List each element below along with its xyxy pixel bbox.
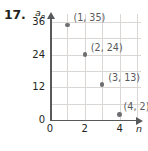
x-tick-label: 0 xyxy=(40,124,60,134)
data-point-label: (4, 2) xyxy=(124,102,148,112)
data-point-label: (3, 13) xyxy=(108,73,140,83)
grid-line-horizontal xyxy=(50,55,141,56)
x-tick-label: 2 xyxy=(75,124,95,134)
data-point xyxy=(83,52,88,57)
grid-line-horizontal xyxy=(50,38,141,39)
y-axis-arrow-icon xyxy=(47,12,55,19)
x-axis-label: n xyxy=(136,124,142,134)
x-tick-label: 4 xyxy=(110,124,130,134)
grid-line-horizontal xyxy=(50,87,141,88)
y-tick-label: 12 xyxy=(32,82,45,92)
exercise-figure: 17. an n 0122436 024 (1, 35)(2, 24)(3, 1… xyxy=(0,0,148,151)
data-point-label: (2, 24) xyxy=(91,43,123,53)
data-point xyxy=(117,112,122,117)
y-tick-label: 36 xyxy=(32,17,45,27)
scatter-plot: an n 0122436 024 (1, 35)(2, 24)(3, 13)(4… xyxy=(0,0,148,151)
data-point xyxy=(65,23,70,28)
data-point-label: (1, 35) xyxy=(73,13,105,23)
y-tick-label: 24 xyxy=(32,50,45,60)
y-axis-line xyxy=(50,18,52,121)
x-axis-line xyxy=(50,120,137,122)
data-point xyxy=(100,82,105,87)
